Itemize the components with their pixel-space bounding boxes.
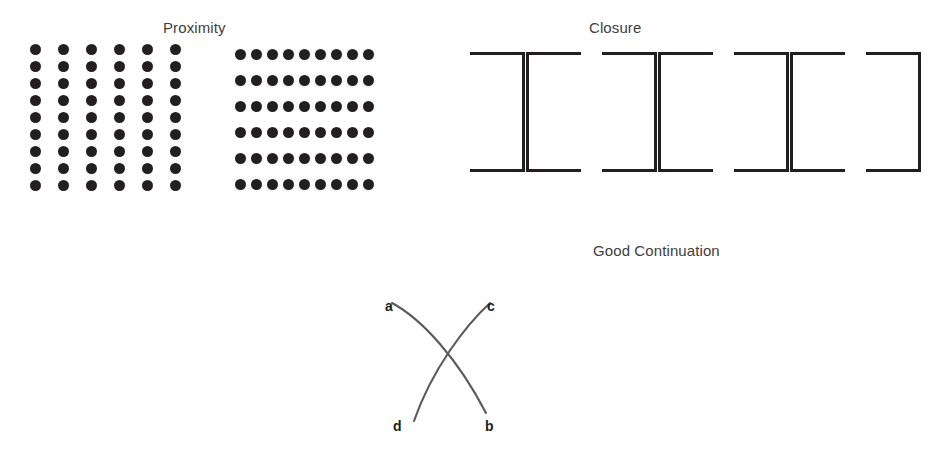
proximity-dot — [114, 112, 125, 123]
proximity-dot — [235, 127, 246, 138]
proximity-section-title: Proximity — [163, 20, 226, 35]
proximity-dot — [170, 112, 181, 123]
proximity-dot — [58, 112, 69, 123]
proximity-dot — [347, 179, 358, 190]
closure-section-title: Closure — [589, 20, 641, 35]
proximity-dot — [58, 95, 69, 106]
proximity-dot — [251, 179, 262, 190]
proximity-column-grouped-dot-grid — [21, 41, 189, 194]
curve-endpoint-label-c: c — [487, 299, 495, 313]
proximity-dot — [251, 75, 262, 86]
proximity-dot — [267, 101, 278, 112]
proximity-dot — [283, 101, 294, 112]
proximity-dot — [347, 127, 358, 138]
proximity-dot — [267, 153, 278, 164]
proximity-dot — [114, 163, 125, 174]
proximity-dot — [251, 101, 262, 112]
good-continuation-section-title: Good Continuation — [593, 243, 720, 258]
proximity-dot — [267, 179, 278, 190]
proximity-dot — [142, 112, 153, 123]
proximity-dot — [58, 163, 69, 174]
proximity-dot — [30, 44, 41, 55]
proximity-dot — [30, 61, 41, 72]
proximity-dot — [315, 75, 326, 86]
proximity-dot — [142, 146, 153, 157]
proximity-dot — [86, 61, 97, 72]
proximity-dot — [58, 146, 69, 157]
curve-endpoint-label-b: b — [485, 419, 494, 433]
proximity-dot — [142, 95, 153, 106]
proximity-dot — [114, 78, 125, 89]
proximity-dot — [142, 180, 153, 191]
proximity-dot — [142, 61, 153, 72]
proximity-dot — [114, 61, 125, 72]
proximity-dot — [142, 129, 153, 140]
proximity-dot — [331, 179, 342, 190]
closure-bracket-left-1 — [526, 52, 581, 172]
proximity-dot — [363, 101, 374, 112]
proximity-dot — [30, 78, 41, 89]
proximity-dot — [267, 75, 278, 86]
proximity-dot — [251, 127, 262, 138]
proximity-dot — [283, 49, 294, 60]
proximity-dot — [363, 127, 374, 138]
proximity-dot — [30, 163, 41, 174]
proximity-dot — [315, 153, 326, 164]
proximity-dot — [114, 129, 125, 140]
closure-bracket-right-6 — [866, 52, 921, 172]
proximity-dot — [170, 163, 181, 174]
proximity-dot — [235, 153, 246, 164]
proximity-dot — [170, 44, 181, 55]
proximity-dot — [170, 61, 181, 72]
proximity-dot — [251, 153, 262, 164]
curve-endpoint-label-d: d — [393, 419, 402, 433]
proximity-dot — [86, 95, 97, 106]
proximity-dot — [86, 44, 97, 55]
proximity-dot — [347, 75, 358, 86]
curve-c-d — [414, 303, 490, 421]
proximity-dot — [363, 179, 374, 190]
proximity-dot — [347, 49, 358, 60]
proximity-dot — [235, 179, 246, 190]
proximity-dot — [267, 127, 278, 138]
proximity-dot — [315, 179, 326, 190]
proximity-dot — [86, 129, 97, 140]
closure-bracket-right-4 — [734, 52, 789, 172]
proximity-dot — [299, 179, 310, 190]
proximity-dot — [299, 49, 310, 60]
proximity-dot — [30, 129, 41, 140]
proximity-dot — [86, 180, 97, 191]
proximity-dot — [251, 49, 262, 60]
proximity-dot — [170, 78, 181, 89]
proximity-dot — [30, 180, 41, 191]
proximity-dot — [114, 146, 125, 157]
proximity-dot — [235, 49, 246, 60]
closure-bracket-right-0 — [470, 52, 525, 172]
curve-endpoint-label-a: a — [385, 299, 393, 313]
proximity-dot — [58, 129, 69, 140]
proximity-dot — [347, 101, 358, 112]
closure-bracket-right-2 — [602, 52, 657, 172]
proximity-dot — [58, 78, 69, 89]
proximity-dot — [86, 112, 97, 123]
proximity-dot — [363, 153, 374, 164]
proximity-dot — [299, 101, 310, 112]
proximity-dot — [283, 153, 294, 164]
gestalt-principles-figure: Proximity Closure Good Continuation a c … — [0, 0, 935, 449]
proximity-dot — [331, 75, 342, 86]
proximity-row-grouped-dot-grid — [232, 41, 376, 197]
proximity-dot — [331, 101, 342, 112]
proximity-dot — [142, 78, 153, 89]
proximity-dot — [142, 163, 153, 174]
proximity-dot — [267, 49, 278, 60]
proximity-dot — [86, 146, 97, 157]
proximity-dot — [170, 146, 181, 157]
proximity-dot — [299, 75, 310, 86]
proximity-dot — [86, 163, 97, 174]
closure-bracket-left-3 — [658, 52, 713, 172]
proximity-dot — [30, 95, 41, 106]
curve-a-b — [392, 303, 486, 413]
proximity-dot — [347, 153, 358, 164]
proximity-dot — [331, 127, 342, 138]
proximity-dot — [114, 44, 125, 55]
